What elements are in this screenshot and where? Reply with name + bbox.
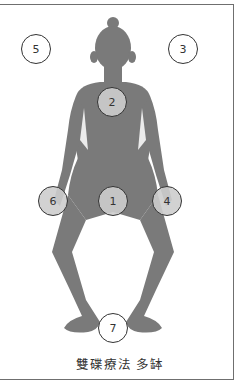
marker-4-label: 4 [164, 195, 171, 208]
marker-3: 3 [168, 34, 198, 64]
marker-6: 6 [38, 186, 68, 216]
marker-7: 7 [98, 313, 128, 343]
marker-5: 5 [21, 34, 51, 64]
marker-5-label: 5 [33, 43, 40, 56]
marker-1-label: 1 [110, 195, 117, 208]
marker-6-label: 6 [50, 195, 57, 208]
marker-7-label: 7 [110, 322, 117, 335]
diagram-caption: 雙碟療法 多缽 [0, 354, 240, 373]
marker-1: 1 [98, 186, 128, 216]
marker-2-label: 2 [109, 96, 116, 109]
marker-2: 2 [97, 87, 127, 117]
marker-4: 4 [152, 186, 182, 216]
marker-3-label: 3 [180, 43, 187, 56]
